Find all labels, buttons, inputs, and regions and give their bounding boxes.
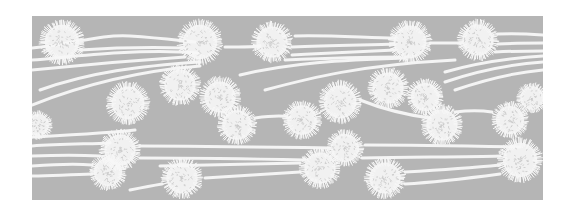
- flow-line: [498, 34, 543, 35]
- flow-line: [498, 43, 543, 44]
- flow-line: [362, 156, 500, 158]
- flow-line: [32, 174, 92, 176]
- decorative-artwork: [0, 0, 570, 215]
- flow-line: [455, 111, 492, 113]
- flow-line: [32, 155, 100, 156]
- flow-line: [495, 51, 543, 52]
- flow-line: [32, 164, 92, 166]
